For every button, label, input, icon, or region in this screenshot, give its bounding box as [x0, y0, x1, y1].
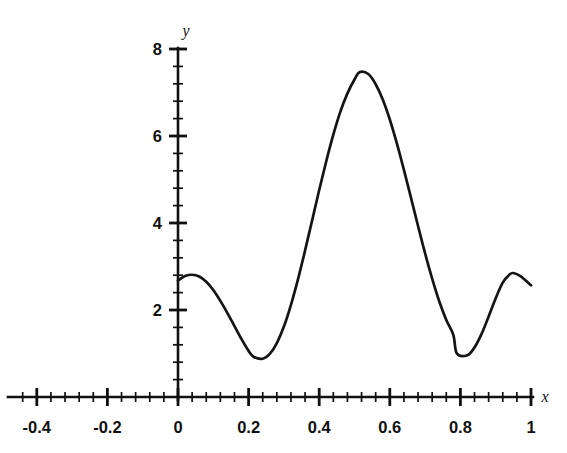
x-tick-label: 1 — [526, 418, 535, 436]
x-tick-label: 0.6 — [378, 418, 401, 436]
y-axis-tick-labels: 2468 — [153, 40, 163, 319]
x-tick-label: 0.4 — [308, 418, 332, 436]
chart-figure: -0.4-0.200.20.40.60.81 2468 x y — [0, 0, 567, 453]
x-tick-label: -0.2 — [93, 418, 121, 436]
y-tick-label: 4 — [153, 214, 163, 232]
x-tick-label: 0 — [173, 418, 182, 436]
y-tick-label: 8 — [153, 40, 162, 58]
y-axis-label: y — [180, 22, 190, 40]
chart-svg: -0.4-0.200.20.40.60.81 2468 x y — [0, 0, 567, 453]
data-curve — [178, 72, 531, 359]
y-tick-label: 2 — [153, 301, 162, 319]
x-tick-label: 0.8 — [449, 418, 472, 436]
x-tick-label: 0.2 — [237, 418, 260, 436]
y-tick-label: 6 — [153, 127, 162, 145]
x-axis-label: x — [540, 388, 548, 405]
x-tick-label: -0.4 — [23, 418, 52, 436]
x-axis-tick-labels: -0.4-0.200.20.40.60.81 — [23, 418, 536, 436]
